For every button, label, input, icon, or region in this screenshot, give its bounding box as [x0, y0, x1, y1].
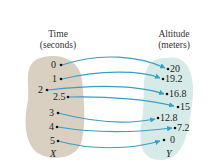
range-value: 16.8: [169, 89, 187, 99]
domain-value: 2.5: [53, 92, 66, 102]
range-set-label: Y: [166, 148, 172, 159]
domain-value: 3: [49, 108, 54, 118]
domain-set-label: X: [50, 148, 56, 159]
range-header: Altitude (meters): [148, 29, 200, 51]
domain-header: Time (seconds): [30, 29, 86, 51]
domain-value: 0: [51, 60, 56, 70]
domain-value: 5: [50, 136, 55, 146]
range-value: 7.2: [177, 123, 190, 133]
domain-value: 1: [52, 74, 57, 84]
domain-header-line2: (seconds): [30, 40, 86, 51]
range-value: 12.8: [160, 113, 178, 123]
range-value: 19.2: [165, 74, 183, 84]
range-header-line2: (meters): [148, 40, 200, 51]
range-value: 0: [170, 135, 175, 145]
domain-value: 4: [49, 122, 54, 132]
mapping-diagram: [0, 0, 212, 168]
domain-header-line1: Time: [30, 29, 86, 40]
domain-value: 2: [38, 85, 43, 95]
range-header-line1: Altitude: [148, 29, 200, 40]
range-value: 15: [180, 102, 190, 112]
